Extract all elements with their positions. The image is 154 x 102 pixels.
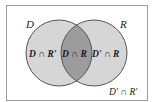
region-r-only-label: D' ∩ R (91, 49, 119, 59)
region-d-only-label: D ∩ R' (28, 49, 57, 59)
set-r-label: R (119, 18, 127, 30)
set-d-label: D (25, 18, 34, 30)
region-intersection-label: D ∩ R (61, 49, 87, 59)
venn-diagram: D R D ∩ R' D ∩ R D' ∩ R D' ∩ R' (0, 0, 154, 102)
region-outside-label: D' ∩ R' (108, 87, 138, 97)
venn-svg: D R D ∩ R' D ∩ R D' ∩ R D' ∩ R' (0, 0, 154, 102)
